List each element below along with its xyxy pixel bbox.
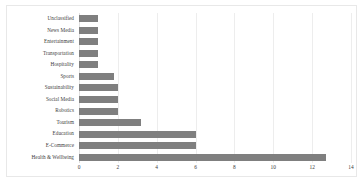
bar-row <box>79 105 351 117</box>
x-axis-tick-label: 8 <box>233 165 236 170</box>
category-label: Social Media <box>7 94 77 106</box>
bar-row <box>79 48 351 60</box>
x-axis-tick-label: 12 <box>309 165 314 170</box>
bar[interactable] <box>79 73 114 80</box>
chart-frame: UnclassifiedNews MediaEntertainmentTrans… <box>6 5 357 177</box>
category-label: Sustainability <box>7 82 77 94</box>
category-label: News Media <box>7 25 77 37</box>
x-axis-tick-label: 0 <box>78 165 81 170</box>
bar[interactable] <box>79 27 98 34</box>
bar-row <box>79 128 351 140</box>
category-label: Unclassified <box>7 13 77 25</box>
category-label: Entertainment <box>7 36 77 48</box>
category-label: Education <box>7 128 77 140</box>
x-axis: 02468101214 <box>79 163 351 177</box>
bar[interactable] <box>79 96 118 103</box>
x-axis-tick-label: 2 <box>116 165 119 170</box>
bar-row <box>79 36 351 48</box>
category-label: Health & Wellbeing <box>7 151 77 163</box>
bar-row <box>79 117 351 129</box>
category-label: Transportation <box>7 48 77 60</box>
bar[interactable] <box>79 84 118 91</box>
bar-row <box>79 25 351 37</box>
bar-row <box>79 82 351 94</box>
category-label: E-Commerce <box>7 140 77 152</box>
bar[interactable] <box>79 142 196 149</box>
bar-row <box>79 151 351 163</box>
category-label: Robotics <box>7 105 77 117</box>
gridline <box>351 13 352 163</box>
x-axis-tick-label: 10 <box>271 165 276 170</box>
y-axis-category-labels: UnclassifiedNews MediaEntertainmentTrans… <box>7 13 77 163</box>
bar-chart: UnclassifiedNews MediaEntertainmentTrans… <box>7 6 358 178</box>
plot-area <box>79 13 352 163</box>
bar[interactable] <box>79 131 196 138</box>
category-label: Tourism <box>7 117 77 129</box>
bar-row <box>79 94 351 106</box>
bar-row <box>79 13 351 25</box>
x-axis-tick-label: 4 <box>155 165 158 170</box>
x-axis-tick-label: 14 <box>348 165 353 170</box>
category-label: Hospitality <box>7 59 77 71</box>
bar-row <box>79 140 351 152</box>
bar-series <box>79 13 351 163</box>
bar[interactable] <box>79 154 326 161</box>
category-label: Sports <box>7 71 77 83</box>
bar[interactable] <box>79 119 141 126</box>
bar[interactable] <box>79 15 98 22</box>
bar[interactable] <box>79 61 98 68</box>
bar[interactable] <box>79 50 98 57</box>
bar-row <box>79 59 351 71</box>
x-axis-tick-label: 6 <box>194 165 197 170</box>
bar-row <box>79 71 351 83</box>
bar[interactable] <box>79 108 118 115</box>
bar[interactable] <box>79 38 98 45</box>
